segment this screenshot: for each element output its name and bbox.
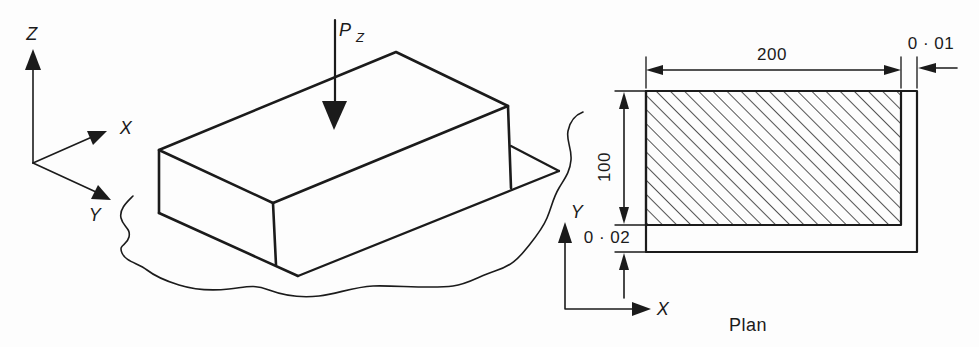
- iso-axes: Z X Y: [25, 24, 133, 225]
- plan-hatch-fill: [646, 91, 901, 225]
- dim-side-clearance: 0 · 01: [908, 34, 957, 88]
- dim-side-arrow-icon: [918, 63, 936, 73]
- y-axis-arrowhead-icon: [91, 185, 111, 200]
- x-axis-label: X: [119, 118, 133, 138]
- dim-height-arrow-up-icon: [619, 92, 629, 109]
- z-axis: Z: [25, 24, 41, 163]
- force-label: P: [339, 20, 352, 40]
- block-front-edge: [273, 203, 276, 265]
- x-axis: X: [33, 118, 133, 163]
- figure-canvas: Z X Y: [0, 0, 979, 347]
- y-axis: Y: [33, 163, 111, 225]
- plan-view: 200 0 · 01 100 0 · 02: [558, 34, 957, 335]
- dim-width: 200: [646, 45, 901, 88]
- y-axis-label: Y: [89, 205, 103, 225]
- dim-width-arrow-right-icon: [884, 65, 901, 75]
- break-line: [121, 112, 583, 297]
- dim-bottom-value: 0 · 02: [584, 228, 630, 247]
- z-axis-label: Z: [25, 24, 38, 44]
- dim-height: 100: [595, 91, 646, 225]
- dim-bottom-clearance: 0 · 02: [584, 228, 646, 298]
- dim-width-arrow-left-icon: [646, 65, 663, 75]
- plate-back-edge: [511, 146, 559, 171]
- plan-y-axis-label: Y: [571, 202, 585, 222]
- plan-y-arrowhead-icon: [558, 222, 572, 243]
- plate-near-edge: [298, 171, 559, 276]
- z-axis-arrowhead-icon: [25, 49, 41, 70]
- plan-x-axis-label: X: [656, 299, 670, 319]
- plan-x-arrowhead-icon: [632, 302, 651, 316]
- force-label-subscript: Z: [355, 30, 365, 45]
- dim-side-value: 0 · 01: [908, 34, 954, 53]
- force-arrowhead-icon: [322, 101, 347, 130]
- block-bottom-left-edge: [159, 213, 298, 276]
- dim-width-value: 200: [757, 45, 787, 64]
- iso-view: Z X Y: [25, 20, 583, 297]
- dim-height-arrow-down-icon: [619, 207, 629, 224]
- dim-bottom-arrow-icon: [619, 253, 629, 270]
- x-axis-arrowhead-icon: [87, 131, 107, 145]
- dim-height-value: 100: [595, 152, 614, 182]
- plan-caption: Plan: [729, 315, 767, 335]
